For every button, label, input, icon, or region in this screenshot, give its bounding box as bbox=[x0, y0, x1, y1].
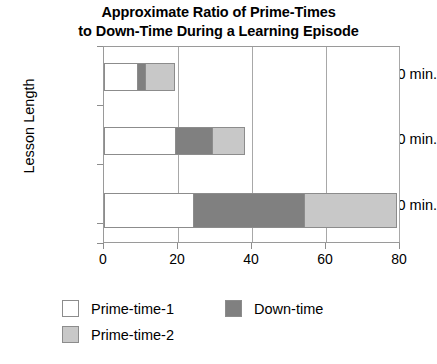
chart-legend: Prime-time-1 Prime-time-2 Down-time bbox=[62, 300, 402, 352]
x-tick-mark-20 bbox=[177, 243, 178, 249]
legend-item-down-time: Down-time bbox=[225, 300, 323, 317]
plot-area bbox=[103, 46, 400, 243]
gridline-x-80 bbox=[399, 47, 400, 242]
legend-swatch-prime-time-1 bbox=[62, 300, 79, 317]
bar-segment-prime-time-2 bbox=[145, 63, 175, 91]
bar-segment-prime-time-1 bbox=[104, 193, 193, 228]
x-tick-label-80: 80 bbox=[379, 251, 419, 267]
bar-row-80min bbox=[104, 193, 397, 228]
bar-row-20min bbox=[104, 63, 175, 91]
legend-item-prime-time-1: Prime-time-1 bbox=[62, 300, 174, 317]
legend-swatch-down-time bbox=[225, 300, 242, 317]
y-axis-title: Lesson Length bbox=[21, 51, 37, 201]
bar-segment-prime-time-2 bbox=[212, 127, 245, 155]
x-tick-mark-80 bbox=[399, 243, 400, 249]
chart-title-line-1: Approximate Ratio of Prime-Times bbox=[0, 3, 437, 22]
x-tick-label-20: 20 bbox=[157, 251, 197, 267]
legend-label-down-time: Down-time bbox=[254, 301, 323, 317]
legend-item-prime-time-2: Prime-time-2 bbox=[62, 326, 174, 343]
x-tick-mark-0 bbox=[103, 243, 104, 249]
x-tick-mark-40 bbox=[251, 243, 252, 249]
x-tick-label-60: 60 bbox=[305, 251, 345, 267]
bar-segment-prime-time-1 bbox=[104, 127, 175, 155]
bar-segment-prime-time-1 bbox=[104, 63, 137, 91]
x-tick-label-40: 40 bbox=[231, 251, 271, 267]
legend-swatch-prime-time-2 bbox=[62, 326, 79, 343]
bar-segment-down-time bbox=[193, 193, 304, 228]
bar-segment-down-time bbox=[175, 127, 212, 155]
x-tick-label-0: 0 bbox=[83, 251, 123, 267]
legend-label-prime-time-1: Prime-time-1 bbox=[91, 301, 174, 317]
bar-segment-down-time bbox=[137, 63, 145, 91]
chart-title: Approximate Ratio of Prime-Times to Down… bbox=[0, 3, 437, 41]
legend-label-prime-time-2: Prime-time-2 bbox=[91, 327, 174, 343]
bar-segment-prime-time-2 bbox=[304, 193, 397, 228]
chart-title-line-2: to Down-Time During a Learning Episode bbox=[0, 22, 437, 41]
bar-row-40min bbox=[104, 127, 245, 155]
chart-figure: Approximate Ratio of Prime-Times to Down… bbox=[0, 0, 437, 364]
x-tick-mark-60 bbox=[325, 243, 326, 249]
